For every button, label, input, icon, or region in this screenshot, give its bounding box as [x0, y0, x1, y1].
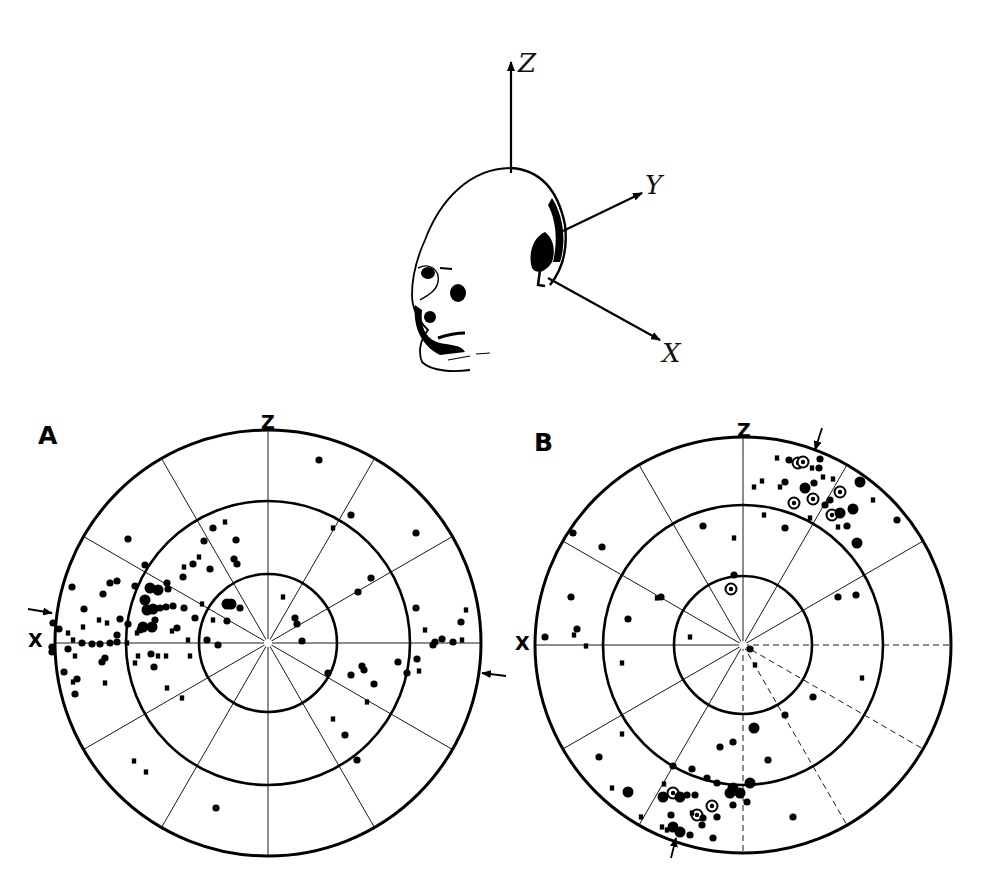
data-point-dot — [843, 522, 850, 529]
data-point-dot — [716, 743, 723, 750]
data-point-dot — [324, 669, 331, 676]
data-point-dot — [71, 690, 78, 697]
data-point-dot — [354, 588, 361, 595]
data-point-square — [690, 810, 694, 815]
data-point-dot — [360, 666, 367, 673]
data-point-dot — [162, 603, 169, 610]
data-point-square — [132, 758, 136, 763]
data-point-circled-core — [801, 460, 805, 464]
head-axes — [511, 62, 660, 340]
data-point-dot — [449, 638, 456, 645]
radial-gridline — [162, 459, 269, 643]
figure-canvas — [0, 0, 984, 885]
panel-a-x-label: X — [28, 631, 43, 650]
data-point-dot — [567, 593, 574, 600]
data-point-square — [810, 465, 814, 470]
head-axis-label-x: X — [662, 340, 681, 366]
head-diagram — [412, 62, 660, 371]
data-point-dot — [173, 624, 180, 631]
data-point-square — [620, 660, 624, 665]
data-point-dot — [595, 753, 602, 760]
data-point-dot — [781, 478, 788, 485]
data-point-dot — [852, 591, 859, 598]
data-point-dot — [394, 658, 401, 665]
data-point-dot — [78, 639, 85, 646]
data-point-dot — [96, 640, 103, 647]
data-point-square — [460, 637, 464, 642]
data-point-square — [125, 640, 129, 645]
data-point-dot — [293, 620, 300, 627]
radial-gridline — [743, 645, 847, 825]
data-point-dot — [703, 774, 710, 781]
data-point-dot — [569, 529, 576, 536]
data-point-dot — [347, 511, 354, 518]
head-illustration — [412, 168, 566, 371]
data-point-dot — [815, 464, 822, 471]
radial-gridline — [268, 643, 375, 827]
data-point-dot — [781, 711, 788, 718]
data-point-dot — [691, 791, 698, 798]
axis-arrow-y — [563, 193, 642, 231]
data-point-square — [188, 653, 192, 658]
data-point-square — [331, 716, 335, 721]
data-point-circled-core — [671, 791, 675, 795]
radial-gridline — [639, 465, 743, 645]
data-point-dot — [667, 811, 674, 818]
data-point-dot — [60, 668, 67, 675]
head-axis-label-y: Y — [645, 172, 662, 198]
radial-gridline — [743, 645, 923, 749]
data-point-dot — [624, 615, 631, 622]
data-point-square — [775, 455, 779, 460]
data-point-dot — [729, 738, 736, 745]
data-point-dot — [413, 655, 420, 662]
data-point-large-dot — [675, 792, 686, 803]
data-point-dot — [683, 791, 690, 798]
data-point-dot — [49, 619, 56, 626]
data-point-square — [860, 675, 864, 680]
data-point-dot — [55, 625, 62, 632]
data-point-square — [97, 617, 101, 622]
stereoplot-panel-a — [28, 430, 506, 856]
radial-gridline — [268, 459, 375, 643]
data-point-dot — [131, 582, 138, 589]
data-point-dot — [163, 579, 170, 586]
data-point-dot — [893, 516, 900, 523]
data-point-dot — [699, 814, 706, 821]
data-point-large-dot — [835, 508, 846, 519]
data-point-circled-core — [729, 587, 733, 591]
data-point-dot — [353, 756, 360, 763]
data-point-dot — [233, 560, 240, 567]
data-point-dot — [429, 641, 436, 648]
center-hub — [264, 639, 272, 647]
pointer-arrow-icon — [815, 428, 822, 450]
data-point-dot — [106, 579, 113, 586]
data-point-square — [223, 519, 227, 524]
data-point-square — [180, 695, 184, 700]
data-point-square — [464, 607, 468, 612]
data-point-dot — [298, 637, 305, 644]
data-point-large-dot — [745, 778, 756, 789]
axis-arrow-x — [548, 278, 660, 340]
data-point-square — [753, 662, 757, 667]
data-point-dot — [151, 616, 158, 623]
data-point-dot — [80, 605, 87, 612]
radial-gridline — [743, 541, 923, 645]
data-point-large-dot — [749, 723, 760, 734]
data-point-square — [331, 525, 335, 530]
data-point-dot — [686, 831, 693, 838]
data-point-large-dot — [735, 788, 746, 799]
data-point-square — [620, 731, 624, 736]
data-point-dot — [598, 543, 605, 550]
data-point-circled-core — [830, 513, 834, 517]
data-point-dot — [164, 585, 171, 592]
data-point-dot — [764, 756, 771, 763]
radial-gridline — [563, 645, 743, 749]
data-point-square — [584, 643, 588, 648]
data-point-square — [73, 653, 77, 658]
data-point-square — [170, 628, 174, 633]
data-point-dot — [212, 804, 219, 811]
data-point-square — [135, 630, 139, 635]
data-point-dot — [48, 648, 55, 655]
data-point-dot — [141, 561, 148, 568]
data-point-dot — [729, 801, 736, 808]
